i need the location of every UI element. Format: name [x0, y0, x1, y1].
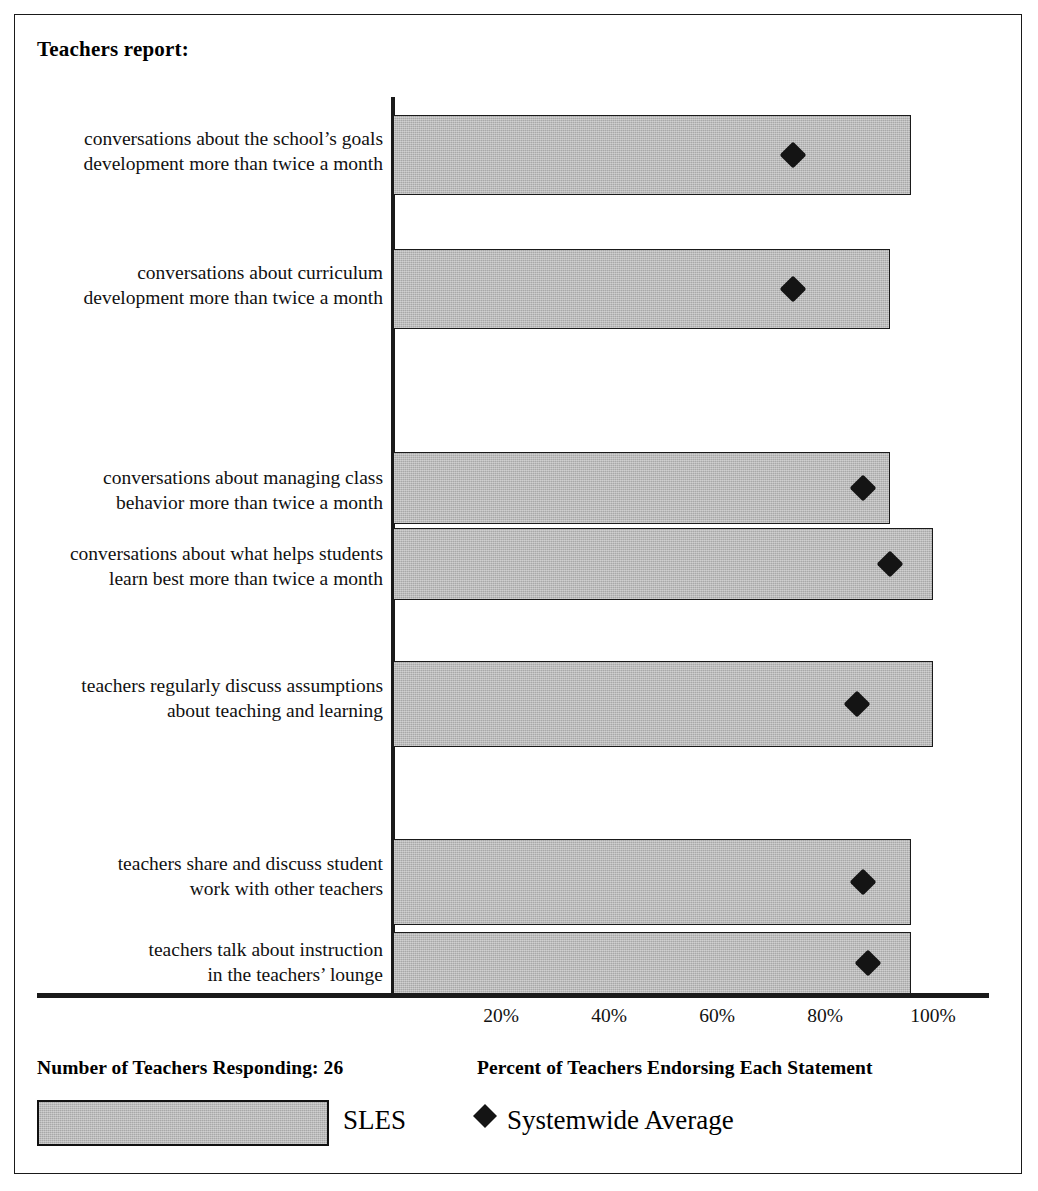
category-label-line2: development more than twice a month: [84, 287, 383, 308]
category-label-1: conversations about the school’s goalsde…: [23, 126, 383, 176]
bar-1: [393, 115, 911, 195]
category-label-2: conversations about curriculumdevelopmen…: [23, 260, 383, 310]
category-label-line2: behavior more than twice a month: [116, 492, 383, 513]
category-label-line1: teachers share and discuss student: [118, 853, 383, 874]
category-label-line1: conversations about what helps students: [70, 543, 383, 564]
x-tick-60%: 60%: [699, 1005, 735, 1027]
category-label-3: conversations about managing classbehavi…: [23, 465, 383, 515]
bar-4: [393, 528, 933, 600]
category-label-line2: in the teachers’ lounge: [207, 964, 383, 985]
legend-bar-swatch: [37, 1100, 329, 1146]
category-label-5: teachers regularly discuss assumptionsab…: [23, 673, 383, 723]
bar-6: [393, 839, 911, 925]
category-label-7: teachers talk about instructionin the te…: [23, 937, 383, 987]
bar-7: [393, 932, 911, 994]
category-label-line2: work with other teachers: [190, 878, 383, 899]
x-axis-caption: Percent of Teachers Endorsing Each State…: [477, 1057, 873, 1079]
category-label-6: teachers share and discuss studentwork w…: [23, 851, 383, 901]
x-tick-40%: 40%: [591, 1005, 627, 1027]
category-label-line2: about teaching and learning: [167, 700, 383, 721]
x-tick-20%: 20%: [483, 1005, 519, 1027]
category-label-line1: conversations about curriculum: [137, 262, 383, 283]
category-label-line2: learn best more than twice a month: [109, 568, 383, 589]
category-label-line1: conversations about the school’s goals: [84, 128, 383, 149]
x-tick-80%: 80%: [807, 1005, 843, 1027]
category-label-line1: teachers talk about instruction: [149, 939, 383, 960]
legend-bar-label: SLES: [343, 1105, 406, 1136]
legend-marker-label: Systemwide Average: [507, 1105, 734, 1136]
category-label-line1: conversations about managing class: [103, 467, 383, 488]
respondent-count: Number of Teachers Responding: 26: [37, 1057, 343, 1079]
chart-frame: Teachers report: conversations about the…: [14, 14, 1022, 1174]
category-label-line1: teachers regularly discuss assumptions: [81, 675, 383, 696]
category-label-line2: development more than twice a month: [84, 153, 383, 174]
bar-3: [393, 452, 890, 524]
plot-area: conversations about the school’s goalsde…: [15, 15, 1023, 1175]
bar-2: [393, 249, 890, 329]
category-label-4: conversations about what helps studentsl…: [23, 541, 383, 591]
x-tick-100%: 100%: [910, 1005, 956, 1027]
